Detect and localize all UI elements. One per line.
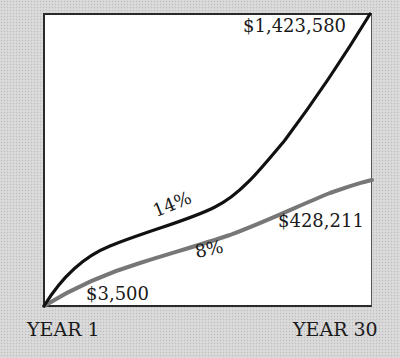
x-axis-start-label: YEAR 1	[27, 320, 100, 339]
end-value-8-percent: $428,211	[278, 212, 364, 230]
chart-lines	[0, 0, 400, 358]
start-value: $3,500	[86, 285, 149, 303]
line-14-percent	[44, 14, 370, 306]
end-value-14-percent: $1,423,580	[243, 17, 346, 35]
x-axis-end-label: YEAR 30	[293, 320, 378, 339]
